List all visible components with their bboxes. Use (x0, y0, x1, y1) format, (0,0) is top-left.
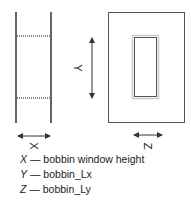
x-dimension-label: X (28, 142, 40, 150)
legend-item-x: X — bobbin window height (20, 152, 144, 167)
z-dimension-label: Z (142, 143, 154, 150)
legend-item-y: Y — bobbin_Lx (20, 167, 144, 182)
winding-window-outline (133, 36, 159, 99)
outer-flange-rect (109, 13, 185, 123)
legend-item-z: Z — bobbin_Ly (20, 182, 144, 197)
bobbin-side-view (16, 12, 51, 123)
bobbin-front-view (109, 13, 185, 123)
inner-core-rect (135, 38, 157, 97)
legend: X — bobbin window height Y — bobbin_Lx Z… (20, 152, 144, 197)
y-dimension-label: Y (72, 64, 84, 72)
